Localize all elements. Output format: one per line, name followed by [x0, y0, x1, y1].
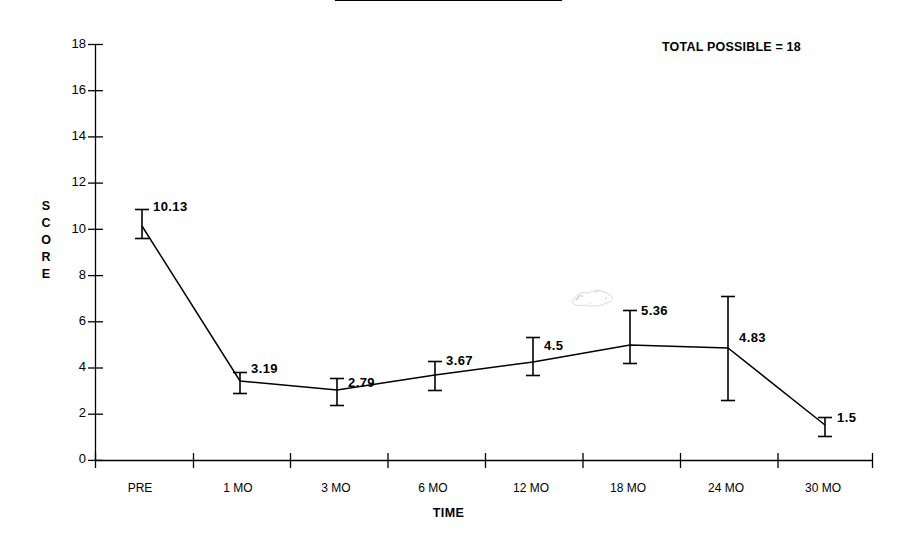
value-label-24mo: 4.83 — [739, 330, 766, 345]
chart-container: DESTRUCTIVE SYMPTOM SCORES TOTAL POSSIBL… — [0, 0, 897, 552]
value-label-12mo: 4.5 — [544, 338, 563, 353]
plot-area — [0, 0, 897, 552]
value-label-pre: 10.13 — [153, 199, 188, 214]
value-label-18mo: 5.36 — [641, 303, 668, 318]
value-label-30mo: 1.5 — [837, 410, 856, 425]
value-label-3mo: 2.79 — [348, 375, 375, 390]
value-label-1mo: 3.19 — [251, 361, 278, 376]
value-label-6mo: 3.67 — [446, 353, 473, 368]
series-line — [142, 226, 825, 425]
error-bars — [135, 209, 832, 437]
